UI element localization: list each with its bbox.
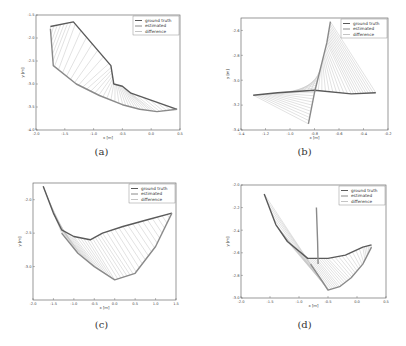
x-tick-label: -1.0 [286, 132, 294, 136]
y-tick-label: -2.6 [232, 29, 240, 33]
legend-label: ground truth [145, 18, 172, 23]
caption-b: (b) [203, 146, 406, 157]
y-tick-label: -2.8 [232, 54, 240, 58]
y-tick-label: -3.4 [232, 128, 240, 132]
x-tick-label: -2.0 [29, 302, 37, 306]
y-tick-label: -3.0 [232, 79, 240, 83]
y-tick-label: -3.2 [232, 103, 239, 107]
y-tick-label: -2.4 [232, 229, 240, 233]
estimated-line [308, 22, 330, 124]
caption-c: (c) [0, 319, 203, 330]
panel-b: -1.4-1.2-1.0-0.8-0.6-0.4-0.2-2.6-2.8-3.0… [203, 0, 406, 173]
legend-label: difference [351, 199, 372, 204]
chart-a: -2.0-1.5-1.0-0.50.00.5-1.5-2.0-2.5-3.0-3… [0, 0, 203, 150]
x-tick-label: -0.5 [91, 302, 98, 306]
y-tick-label: -3.0 [24, 265, 32, 269]
panel-a: -2.0-1.5-1.0-0.50.00.5-1.5-2.0-2.5-3.0-3… [0, 0, 203, 173]
x-axis-label: x [m] [308, 303, 319, 308]
x-tick-label: -0.5 [324, 300, 331, 304]
difference-lines [50, 22, 177, 111]
legend-label: ground truth [353, 21, 380, 26]
y-tick-label: -2.8 [232, 274, 240, 278]
legend: ground truthestimateddifference [133, 16, 179, 35]
y-tick-label: -3.0 [232, 296, 240, 300]
x-axis-label: x [m] [103, 135, 114, 140]
x-tick-label: -0.6 [335, 132, 343, 136]
x-tick-label: -1.5 [266, 300, 273, 304]
y-tick-label: -4.0 [27, 128, 35, 132]
y-tick-label: -2.5 [24, 231, 31, 235]
x-tick-label: 0.0 [148, 132, 154, 136]
panel-c: -2.0-1.5-1.0-0.50.00.51.01.5-2.0-2.5-3.0… [0, 173, 203, 346]
x-tick-label: 1.0 [153, 302, 159, 306]
x-tick-label: -0.5 [119, 132, 126, 136]
y-axis-label: y [m] [20, 67, 25, 78]
chart-c: -2.0-1.5-1.0-0.50.00.51.01.5-2.0-2.5-3.0… [0, 173, 203, 323]
x-tick-label: 0.5 [383, 300, 389, 304]
x-tick-label: -0.2 [384, 132, 391, 136]
x-tick-label: -1.5 [50, 302, 57, 306]
y-axis-label: y [m] [17, 236, 22, 247]
x-tick-label: -1.5 [61, 132, 68, 136]
x-tick-label: 0.0 [112, 302, 118, 306]
y-tick-label: -1.5 [27, 13, 34, 17]
legend-label: estimated [353, 26, 374, 31]
chart-b: -1.4-1.2-1.0-0.8-0.6-0.4-0.2-2.6-2.8-3.0… [203, 0, 406, 150]
x-tick-label: 0.5 [177, 132, 183, 136]
x-tick-label: 0.5 [132, 302, 138, 306]
legend: ground truthestimateddifference [129, 184, 175, 203]
y-axis-label: y [m] [225, 236, 230, 247]
legend: ground truthestimateddifference [339, 186, 385, 205]
y-tick-label: -2.6 [232, 251, 240, 255]
legend-label: estimated [351, 193, 372, 198]
x-tick-label: -1.0 [70, 302, 78, 306]
x-tick-label: 0.0 [354, 300, 360, 304]
y-tick-label: -3.5 [27, 105, 34, 109]
vertical-segment-line [316, 208, 318, 265]
y-tick-label: -2.0 [24, 198, 32, 202]
y-tick-label: -2.0 [27, 36, 35, 40]
x-axis-label: x [m] [99, 305, 110, 310]
legend-label: ground truth [141, 186, 168, 191]
legend-label: estimated [141, 191, 162, 196]
x-tick-label: -1.0 [90, 132, 98, 136]
plot-area: -2.0-1.5-1.0-0.50.00.5-2.0-2.2-2.4-2.6-2… [225, 183, 389, 308]
y-tick-label: -2.5 [27, 59, 34, 63]
x-tick-label: -1.2 [262, 132, 269, 136]
plot-area: -2.0-1.5-1.0-0.50.00.51.01.5-2.0-2.5-3.0… [17, 183, 179, 310]
x-tick-label: -0.4 [360, 132, 368, 136]
legend-label: difference [145, 29, 166, 34]
legend-label: difference [141, 197, 162, 202]
chart-d: -2.0-1.5-1.0-0.50.00.5-2.0-2.2-2.4-2.6-2… [203, 173, 406, 323]
x-axis-label: x [m] [309, 135, 320, 140]
legend: ground truthestimateddifference [341, 19, 387, 38]
caption-d: (d) [203, 319, 406, 330]
y-tick-label: -2.2 [232, 206, 239, 210]
legend-label: ground truth [351, 188, 378, 193]
x-tick-label: -1.0 [295, 300, 303, 304]
y-axis-label: y [m] [225, 68, 230, 79]
legend-label: estimated [145, 23, 166, 28]
plot-area: -1.4-1.2-1.0-0.8-0.6-0.4-0.2-2.6-2.8-3.0… [225, 18, 392, 140]
y-tick-label: -2.0 [232, 183, 240, 187]
plot-area: -2.0-1.5-1.0-0.50.00.5-1.5-2.0-2.5-3.0-3… [20, 13, 183, 140]
y-tick-label: -3.0 [27, 82, 35, 86]
panel-d: -2.0-1.5-1.0-0.50.00.5-2.0-2.2-2.4-2.6-2… [203, 173, 406, 346]
legend-label: difference [353, 32, 374, 37]
caption-a: (a) [0, 146, 203, 157]
x-tick-label: 1.5 [173, 302, 179, 306]
